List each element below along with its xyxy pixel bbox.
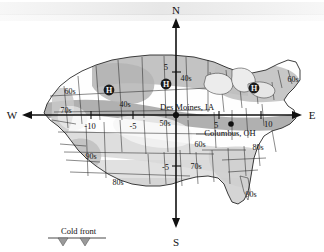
band-southeast-80s <box>209 147 279 188</box>
isotherm-label: 80s <box>252 143 263 152</box>
axis-label-north: N <box>172 4 180 16</box>
y-tick-label-neg5: -5 <box>162 162 169 172</box>
city-label-columbus: Columbus, OH <box>204 128 255 138</box>
x-tick-label-neg10: -10 <box>84 121 95 131</box>
y-axis-arrow-south <box>172 218 180 228</box>
y-tick-label-pos5: 5 <box>164 62 168 72</box>
high-pressure-marker-west: H <box>104 85 115 96</box>
isotherm-label: 50s <box>159 119 170 128</box>
weather-map-figure: N S E W -10 -5 5 10 5 -5 Des Moines, IA … <box>0 0 324 252</box>
band-80s-90s <box>40 160 300 210</box>
isotherm-label: 60s <box>287 75 298 84</box>
us-weather-map: N S E W -10 -5 5 10 5 -5 Des Moines, IA … <box>0 0 324 252</box>
origin-point-des-moines <box>173 112 179 118</box>
isotherm-label: 60s <box>194 140 205 149</box>
cold-front-legend-label: Cold front <box>61 226 97 236</box>
high-pressure-symbol: H <box>251 84 258 93</box>
city-label-des-moines: Des Moines, IA <box>160 102 215 112</box>
temperature-band-group <box>40 50 306 212</box>
x-tick-label-pos10: 10 <box>264 119 273 129</box>
axis-label-south: S <box>173 236 179 248</box>
cold-front-legend: Cold front <box>48 226 106 246</box>
cold-front-triangle <box>80 238 90 246</box>
axis-label-east: E <box>309 109 316 121</box>
isotherm-label: 90s <box>85 152 96 161</box>
axis-label-west: W <box>7 109 18 121</box>
isotherm-label: 70s <box>60 106 71 115</box>
x-axis-arrow-east <box>292 111 302 119</box>
city-point-columbus <box>228 121 234 127</box>
high-pressure-marker-northeast: H <box>249 83 260 94</box>
isotherm-label: 70s <box>190 162 201 171</box>
isotherm-label: 40s <box>119 100 130 109</box>
isotherm-label: 40s <box>180 74 191 83</box>
isotherm-label: 80s <box>112 178 123 187</box>
x-tick-label-neg5: -5 <box>129 121 136 131</box>
x-axis-arrow-west <box>22 111 32 119</box>
high-pressure-marker-north: H <box>161 79 172 90</box>
isotherm-label: 60s <box>64 87 75 96</box>
high-pressure-symbol: H <box>163 80 170 89</box>
isotherm-label: 90s <box>245 190 256 199</box>
cold-front-triangle <box>58 238 68 246</box>
high-pressure-symbol: H <box>106 86 113 95</box>
y-axis-arrow-north <box>172 18 180 28</box>
